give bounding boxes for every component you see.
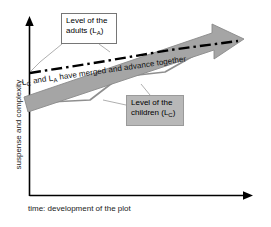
adults-callout-box[interactable]: Level of the adults (LA) bbox=[61, 13, 117, 44]
y-axis-arrowhead bbox=[25, 16, 33, 26]
children-callout-paren: ) bbox=[173, 108, 176, 117]
x-axis-title: time: development of the plot bbox=[28, 204, 131, 213]
children-callout-line1: Level of the bbox=[131, 98, 180, 108]
banner-text-sub-c: C bbox=[26, 81, 31, 88]
children-callout-text: children (L bbox=[131, 108, 168, 117]
children-callout-line2: children (LC) bbox=[131, 108, 180, 118]
adults-callout-text: adults (L bbox=[66, 26, 97, 35]
diagram-canvas: LC and LA have merged and advance togeth… bbox=[0, 0, 271, 227]
y-axis-title: suspense and complexity bbox=[14, 70, 23, 180]
adults-callout-line1: Level of the bbox=[66, 16, 113, 26]
adults-callout-subscript: A bbox=[97, 30, 101, 36]
children-callout-box[interactable]: Level of the children (LC) bbox=[126, 95, 184, 126]
banner-text-sub-a: A bbox=[53, 77, 58, 84]
adults-callout-paren: ) bbox=[101, 26, 104, 35]
adults-callout-line2: adults (LA) bbox=[66, 26, 113, 36]
children-callout-subscript: C bbox=[168, 112, 172, 118]
x-axis-arrowhead bbox=[243, 191, 253, 200]
